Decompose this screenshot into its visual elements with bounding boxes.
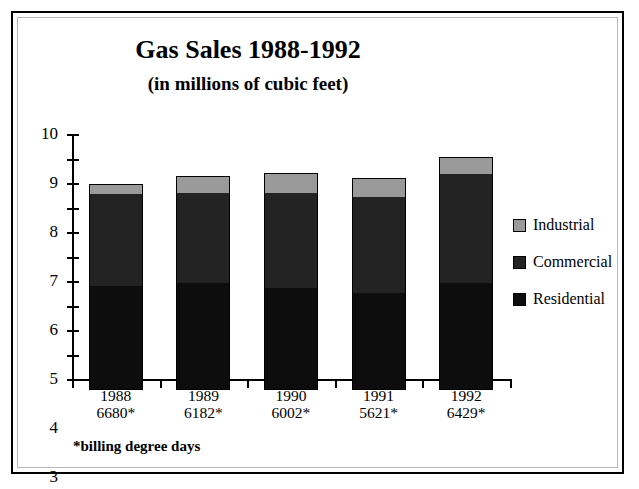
y-axis-tick: 7 [67,208,79,210]
category-year: 1991 [335,387,423,404]
y-axis-tick: 9 [67,159,79,161]
bar-segment-residential[interactable] [265,288,317,390]
bar-segment-residential[interactable] [440,283,492,390]
bar-column[interactable] [89,184,143,390]
y-axis-tick: 5 [67,257,79,259]
bar-segment-commercial[interactable] [177,193,229,284]
bar-segment-commercial[interactable] [353,197,405,293]
y-axis-tick: 2 [67,330,79,332]
legend-item-commercial[interactable]: Commercial [513,253,612,271]
bar-segment-commercial[interactable] [90,194,142,286]
y-axis-tick: 6 [67,232,79,234]
legend-item-industrial[interactable]: Industrial [513,216,612,234]
chart-frame: Gas Sales 1988-1992 (in millions of cubi… [11,11,624,474]
x-axis-tick [510,379,512,388]
legend-swatch-icon [513,256,526,269]
y-axis-tick-label: 10 [41,124,58,144]
plot-area: 012345678910 19886680*19896182*19906002*… [72,135,510,390]
y-axis-tick-label: 6 [50,320,59,340]
category-degree-days: 6429* [422,404,510,421]
y-axis-tick-label: 9 [50,173,59,193]
bar-segment-commercial[interactable] [265,193,317,289]
y-axis-tick: 3 [67,306,79,308]
x-axis-category-label: 19915621* [335,387,423,421]
bar-column[interactable] [264,173,318,390]
category-year: 1988 [72,387,160,404]
y-axis-tick-label: 3 [50,467,59,487]
chart-subtitle: (in millions of cubic feet) [13,73,483,95]
bar-segment-industrial[interactable] [90,185,142,194]
category-degree-days: 6680* [72,404,160,421]
bar-segment-industrial[interactable] [440,158,492,174]
y-axis-tick: 8 [67,183,79,185]
bar-segment-industrial[interactable] [265,174,317,192]
chart-title: Gas Sales 1988-1992 [13,35,483,65]
y-axis-tick-label: 5 [50,369,59,389]
y-axis-tick-label: 4 [50,418,59,438]
chart-footnote: *billing degree days [73,438,200,455]
legend-item-label: Residential [533,290,605,308]
x-axis-category-label: 19926429* [422,387,510,421]
y-axis-tick-label: 7 [50,271,59,291]
bar-column[interactable] [176,176,230,390]
y-axis-tick-label: 8 [50,222,59,242]
x-axis-category-label: 19906002* [247,387,335,421]
legend-item-label: Commercial [533,253,612,271]
legend-item-residential[interactable]: Residential [513,290,612,308]
category-year: 1992 [422,387,510,404]
legend-swatch-icon [513,219,526,232]
x-axis-category-label: 19896182* [160,387,248,421]
chart-legend: IndustrialCommercialResidential [513,216,612,327]
bar-segment-industrial[interactable] [177,177,229,193]
legend-item-label: Industrial [533,216,594,234]
legend-swatch-icon [513,293,526,306]
y-axis-tick: 10 [67,134,79,136]
bar-column[interactable] [439,157,493,390]
category-degree-days: 6182* [160,404,248,421]
category-year: 1990 [247,387,335,404]
bar-column[interactable] [352,178,406,390]
category-degree-days: 6002* [247,404,335,421]
category-degree-days: 5621* [335,404,423,421]
x-axis-category-label: 19886680* [72,387,160,421]
y-axis-tick: 4 [67,281,79,283]
bar-segment-residential[interactable] [90,286,142,390]
bar-segment-commercial[interactable] [440,174,492,283]
category-year: 1989 [160,387,248,404]
bar-segment-industrial[interactable] [353,179,405,197]
bar-segment-residential[interactable] [353,293,405,390]
bar-segment-residential[interactable] [177,283,229,390]
chart-area: Gas Sales 1988-1992 (in millions of cubi… [13,13,626,476]
y-axis-tick: 1 [67,355,79,357]
